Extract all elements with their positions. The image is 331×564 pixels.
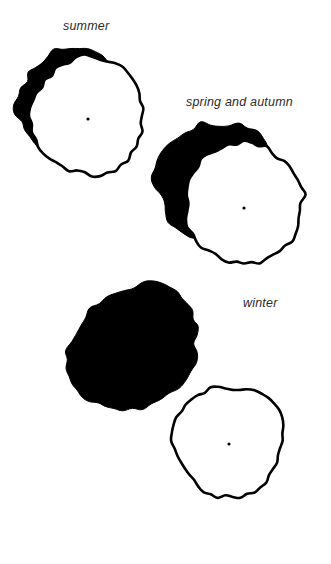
centre-dot-winter — [227, 442, 230, 445]
canopy-spring-and-autumn — [186, 141, 306, 264]
centre-dot-spring-and-autumn — [242, 206, 245, 209]
label-winter: winter — [243, 297, 278, 310]
season-group-winter — [65, 281, 283, 498]
canopy-winter — [171, 387, 283, 498]
shadow-winter — [65, 281, 198, 411]
figure-root: summer spring and autumn winter — [0, 0, 331, 564]
season-group-summer — [13, 48, 143, 177]
centre-dot-summer — [86, 117, 89, 120]
label-spring-and-autumn: spring and autumn — [186, 96, 293, 109]
canopy-shadow-svg — [0, 0, 331, 564]
label-summer: summer — [63, 20, 109, 33]
season-group-spring-and-autumn — [151, 122, 305, 264]
